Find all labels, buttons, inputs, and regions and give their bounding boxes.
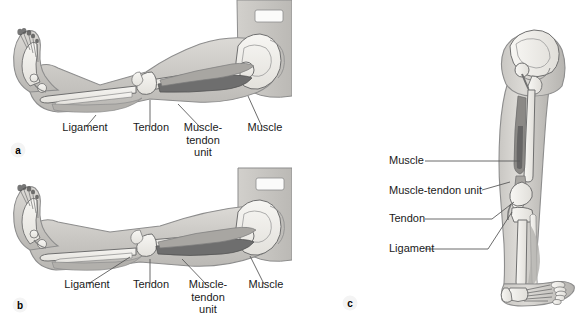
- mtu-line-3-b: unit: [189, 303, 228, 316]
- mtu-line-2-a: tendon: [184, 134, 223, 147]
- label-muscle-tendon-unit-c: Muscle-tendon unit: [389, 184, 482, 197]
- label-muscle-b: Muscle: [249, 278, 284, 291]
- panel-letter-a: a: [11, 143, 26, 158]
- leader-ligament: [425, 212, 512, 249]
- mtu-line-1-b: Muscle-: [189, 278, 228, 291]
- label-tendon-c: Tendon: [389, 212, 425, 225]
- panel-b-illustration: [0, 160, 292, 322]
- label-muscle-tendon-unit-b: Muscle- tendon unit: [189, 278, 228, 316]
- label-ligament-a: Ligament: [62, 121, 107, 134]
- label-ligament-b: Ligament: [64, 278, 109, 291]
- panel-c-illustration: [292, 0, 584, 322]
- label-ligament-c: Ligament: [389, 242, 434, 255]
- mtu-line-1-a: Muscle-: [184, 121, 223, 134]
- label-muscle-c: Muscle: [389, 154, 424, 167]
- panel-a-illustration: [0, 0, 292, 160]
- panel-c: Muscle Muscle-tendon unit Tendon Ligamen…: [292, 0, 584, 322]
- mtu-line-3-a: unit: [184, 146, 223, 159]
- anatomy-figure: Ligament Tendon Muscle- tendon unit Musc…: [0, 0, 584, 322]
- panel-letter-b: b: [13, 298, 28, 313]
- label-muscle-a: Muscle: [248, 121, 283, 134]
- panel-letter-c: c: [343, 296, 358, 311]
- label-tendon-a: Tendon: [133, 121, 169, 134]
- panel-a: Ligament Tendon Muscle- tendon unit Musc…: [0, 0, 292, 160]
- panel-b: Ligament Tendon Muscle- tendon unit Musc…: [0, 160, 292, 322]
- label-tendon-b: Tendon: [133, 278, 169, 291]
- label-muscle-tendon-unit-a: Muscle- tendon unit: [184, 121, 223, 159]
- mtu-line-2-b: tendon: [189, 291, 228, 304]
